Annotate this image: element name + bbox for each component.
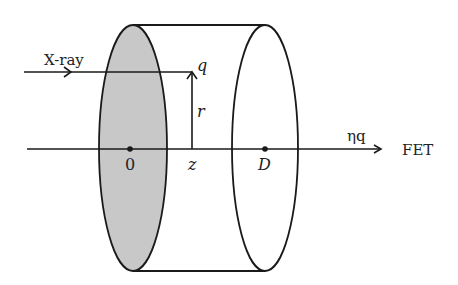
origin-label: 0 <box>125 155 135 174</box>
q-label: q <box>197 56 207 75</box>
fet-label: FET <box>402 141 433 159</box>
origin-point <box>127 146 133 152</box>
d-label: D <box>257 155 271 174</box>
xray-label: X-ray <box>44 51 84 69</box>
cylinder-detector-diagram: X-ray q r 0 z D ηq FET <box>0 0 458 285</box>
d-point <box>262 146 268 152</box>
r-label: r <box>197 102 206 121</box>
eta-q-label: ηq <box>347 127 366 145</box>
front-face-ellipse <box>99 25 167 271</box>
z-label: z <box>187 155 197 174</box>
